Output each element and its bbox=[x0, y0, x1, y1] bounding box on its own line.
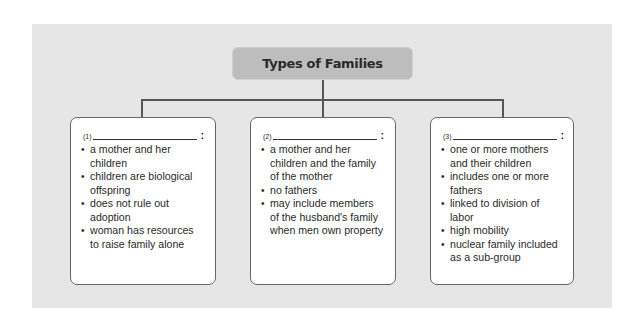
card-heading: (2) : bbox=[263, 126, 385, 140]
bullet-item: a mother and her children bbox=[81, 143, 205, 170]
bullet-item: nuclear family included as a sub-group bbox=[441, 238, 563, 265]
bullet-item: woman has resources to raise family alon… bbox=[81, 224, 205, 251]
family-type-card-3: (3) : one or more mothers and their chil… bbox=[430, 117, 574, 285]
card-number: (3) bbox=[443, 133, 452, 140]
bullet-item: one or more mothers and their children bbox=[441, 143, 563, 170]
bullet-item: children are biological offspring bbox=[81, 170, 205, 197]
bullet-item: linked to division of labor bbox=[441, 197, 563, 224]
answer-blank[interactable] bbox=[93, 129, 197, 140]
family-type-card-2: (2) : a mother and her children and the … bbox=[250, 117, 396, 285]
card-number: (1) bbox=[83, 133, 92, 140]
colon: : bbox=[381, 130, 385, 140]
bullet-list: a mother and her children children are b… bbox=[81, 143, 205, 251]
connector-drop-center bbox=[322, 99, 324, 117]
colon: : bbox=[201, 130, 205, 140]
bullet-item: high mobility bbox=[441, 224, 563, 238]
bullet-list: one or more mothers and their children i… bbox=[441, 143, 563, 265]
colon: : bbox=[561, 130, 565, 140]
card-heading: (3) : bbox=[443, 126, 563, 140]
family-type-card-1: (1) : a mother and her children children… bbox=[70, 117, 216, 285]
card-heading: (1) : bbox=[83, 126, 205, 140]
bullet-item: includes one or more fathers bbox=[441, 170, 563, 197]
connector-drop-right bbox=[502, 99, 504, 117]
connector-stem bbox=[322, 80, 324, 100]
bullet-list: a mother and her children and the family… bbox=[261, 143, 385, 238]
diagram-title: Types of Families bbox=[262, 56, 383, 71]
bullet-item: does not rule out adoption bbox=[81, 197, 205, 224]
answer-blank[interactable] bbox=[273, 129, 377, 140]
bullet-item: no fathers bbox=[261, 184, 385, 198]
bullet-item: may include members of the husband's fam… bbox=[261, 197, 385, 238]
connector-drop-left bbox=[141, 99, 143, 117]
answer-blank[interactable] bbox=[453, 129, 557, 140]
title-box: Types of Families bbox=[232, 47, 413, 80]
bullet-item: a mother and her children and the family… bbox=[261, 143, 385, 184]
card-number: (2) bbox=[263, 133, 272, 140]
